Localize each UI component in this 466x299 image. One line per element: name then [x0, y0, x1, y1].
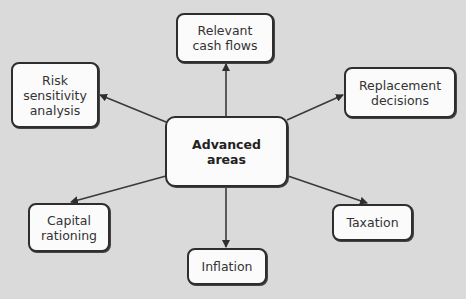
node-relevant-cash-flows: Relevant cash flows: [176, 13, 274, 63]
arrow-to-taxation: [288, 176, 367, 203]
node-label: Capital rationing: [41, 213, 97, 243]
center-label: Advanced areas: [192, 137, 261, 167]
node-label: Inflation: [201, 259, 252, 274]
node-risk-sensitivity-analysis: Risk sensitivity analysis: [11, 62, 99, 128]
node-label: Replacement decisions: [359, 78, 441, 108]
node-taxation: Taxation: [332, 204, 413, 241]
node-label: Taxation: [346, 215, 398, 230]
node-capital-rationing: Capital rationing: [28, 203, 110, 252]
arrow-to-replacement-decisions: [287, 95, 343, 120]
node-label: Risk sensitivity analysis: [23, 73, 87, 118]
node-inflation: Inflation: [187, 248, 267, 285]
node-replacement-decisions: Replacement decisions: [344, 67, 456, 118]
diagram-canvas: Relevant cash flows Risk sensitivity ana…: [0, 0, 466, 299]
node-label: Relevant cash flows: [192, 23, 257, 53]
node-advanced-areas: Advanced areas: [165, 116, 288, 187]
arrow-to-risk-sensitivity-analysis: [100, 95, 166, 122]
arrow-to-capital-rationing: [71, 176, 166, 202]
